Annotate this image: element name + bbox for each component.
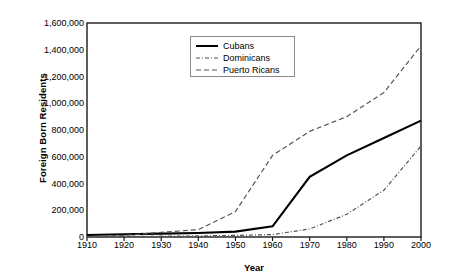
x-axis-tick-label: 1970 [290, 240, 330, 250]
legend-label-puerto-ricans: Puerto Ricans [223, 65, 280, 76]
legend-item-dominicans: Dominicans [195, 52, 290, 64]
x-axis-tick-label: 1910 [67, 240, 107, 250]
x-axis-tick-label: 1950 [215, 240, 255, 250]
x-axis-tick-label: 1980 [327, 240, 367, 250]
x-axis-tick-label: 1930 [141, 240, 181, 250]
x-axis-label: Year [87, 262, 421, 273]
legend-swatch-puerto-ricans [195, 65, 219, 75]
x-axis-tick-label: 2000 [401, 240, 441, 250]
x-axis-tick-label: 1940 [178, 240, 218, 250]
legend-swatch-cubans [195, 41, 219, 51]
x-axis-tick-label: 1990 [364, 240, 404, 250]
series-line-dominicans [87, 146, 421, 237]
legend-swatch-dominicans [195, 53, 219, 63]
x-axis-tick-label: 1960 [253, 240, 293, 250]
x-axis-tick-label: 1920 [104, 240, 144, 250]
legend-label-dominicans: Dominicans [223, 53, 270, 64]
series-line-cubans [87, 121, 421, 235]
legend: Cubans Dominicans Puerto Ricans [190, 36, 295, 77]
legend-item-puerto-ricans: Puerto Ricans [195, 64, 290, 76]
legend-item-cubans: Cubans [195, 40, 290, 52]
legend-label-cubans: Cubans [223, 41, 254, 52]
chart-container: Foreign Born Residents 0200,000400,00060… [0, 0, 451, 280]
